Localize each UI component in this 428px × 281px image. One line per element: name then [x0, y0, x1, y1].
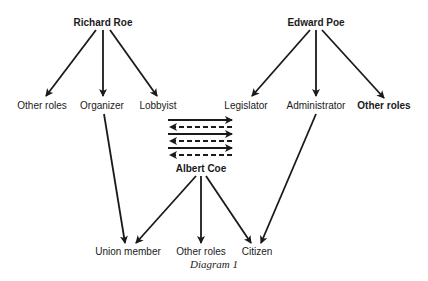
node-richard-roe: Richard Roe [74, 17, 133, 29]
node-lobbyist: Lobbyist [139, 100, 176, 112]
edge-ac-union [136, 176, 196, 243]
diagram-caption: Diagram 1 [190, 258, 238, 270]
edge-organizer-union [104, 114, 125, 243]
edge-rr-lobbyist [110, 30, 157, 96]
node-albert-coe: Albert Coe [176, 163, 227, 175]
edge-ac-citizen [206, 176, 251, 243]
node-union-member: Union member [95, 246, 161, 258]
edge-administrator-citizen [261, 114, 316, 243]
edge-rr-otherroles [46, 30, 96, 96]
node-ac-other-roles: Other roles [176, 246, 225, 258]
edge-ep-otherroles [322, 30, 384, 98]
node-organizer: Organizer [80, 100, 124, 112]
node-rr-other-roles: Other roles [17, 100, 66, 112]
node-citizen: Citizen [242, 246, 273, 258]
node-edward-poe: Edward Poe [287, 17, 344, 29]
diagram-lines [0, 0, 428, 281]
node-legislator: Legislator [224, 100, 267, 112]
node-ep-other-roles: Other roles [357, 100, 410, 112]
node-administrator: Administrator [287, 100, 346, 112]
edge-ep-legislator [252, 30, 310, 96]
